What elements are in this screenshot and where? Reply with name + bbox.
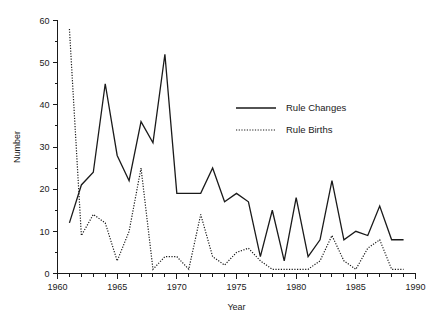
y-tick-label: 20 — [39, 184, 49, 194]
x-tick-label: 1960 — [47, 282, 67, 292]
x-tick-label: 1970 — [167, 282, 187, 292]
y-tick-label: 40 — [39, 100, 49, 110]
line-chart-canvas: 0102030405060 19601965197019751980198519… — [0, 0, 434, 317]
data-series-group — [69, 29, 403, 269]
x-tick-label: 1975 — [226, 282, 246, 292]
y-tick-label: 50 — [39, 58, 49, 68]
x-tick-label: 1990 — [405, 282, 425, 292]
chart-legend: Rule ChangesRule Births — [236, 102, 346, 135]
x-tick-label: 1965 — [107, 282, 127, 292]
x-tick-label: 1985 — [346, 282, 366, 292]
y-tick-label: 30 — [39, 142, 49, 152]
y-tick-label: 60 — [39, 16, 49, 26]
y-axis: 0102030405060 — [39, 16, 57, 279]
series-line-1 — [69, 54, 403, 261]
legend-label-1: Rule Changes — [286, 102, 346, 113]
x-tick-label: 1980 — [286, 282, 306, 292]
y-axis-title: Number — [12, 131, 22, 163]
x-axis-title: Year — [227, 302, 245, 312]
y-tick-label: 0 — [44, 269, 49, 279]
x-axis: 1960196519701975198019851990 — [47, 274, 425, 292]
chart-figure: 0102030405060 19601965197019751980198519… — [0, 0, 434, 317]
y-tick-label: 10 — [39, 227, 49, 237]
legend-label-2: Rule Births — [286, 124, 333, 135]
